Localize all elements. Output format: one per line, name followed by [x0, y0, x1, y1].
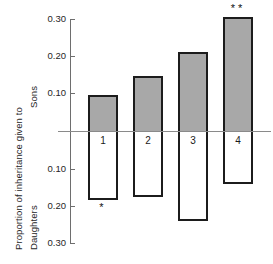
bar-category-label-2: 2: [133, 135, 163, 146]
significance-marker-1: *: [88, 202, 118, 213]
zero-baseline: [58, 131, 271, 132]
bar-category-label-4: 4: [223, 135, 253, 146]
bar-category-label-1: 1: [88, 135, 118, 146]
bar-category-label-3: 3: [178, 135, 208, 146]
bar-sons-4[interactable]: [223, 17, 253, 132]
plot-area: 1*234**: [0, 0, 273, 264]
bar-group-3: 3: [178, 0, 208, 264]
bar-sons-1[interactable]: [88, 95, 118, 132]
bar-sons-3[interactable]: [178, 52, 208, 132]
bar-group-4: 4**: [223, 0, 253, 264]
chart-figure: Proportion of inheritance given to Sons …: [0, 0, 273, 264]
bar-sons-2[interactable]: [133, 76, 163, 133]
bar-group-2: 2: [133, 0, 163, 264]
significance-marker-4: **: [223, 3, 253, 14]
bar-group-1: 1*: [88, 0, 118, 264]
